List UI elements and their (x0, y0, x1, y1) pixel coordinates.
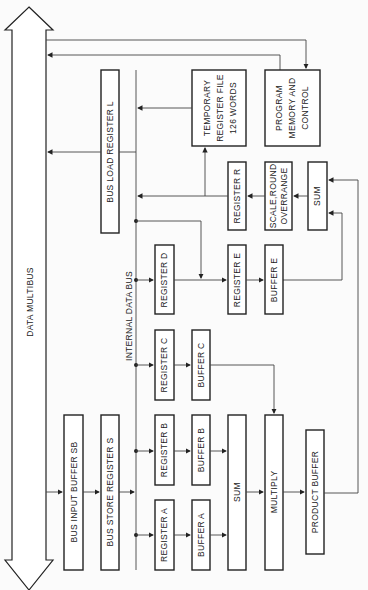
svg-text:BUFFER C: BUFFER C (196, 343, 206, 388)
block-diagram: DATA MULTIBUS INTERNAL DATA BUS BUS LOAD… (0, 0, 368, 590)
svg-text:BUS INPUT BUFFER SB: BUS INPUT BUFFER SB (69, 441, 79, 542)
data-multibus: DATA MULTIBUS (5, 7, 53, 590)
svg-text:BUFFER A: BUFFER A (196, 513, 206, 557)
svg-text:PROGRAM: PROGRAM (274, 85, 284, 131)
svg-text:BUS STORE REGISTER S: BUS STORE REGISTER S (105, 438, 115, 547)
svg-text:BUFFER B: BUFFER B (196, 428, 206, 472)
svg-text:REGISTER B: REGISTER B (159, 423, 169, 478)
svg-text:PRODUCT BUFFER: PRODUCT BUFFER (310, 451, 320, 533)
svg-text:MULTIPLY: MULTIPLY (269, 471, 279, 514)
svg-text:MEMORY AND: MEMORY AND (287, 78, 297, 139)
svg-text:BUS LOAD REGISTER L: BUS LOAD REGISTER L (105, 101, 115, 203)
svg-text:REGISTER E: REGISTER E (232, 253, 242, 308)
svg-text:REGISTER D: REGISTER D (159, 253, 169, 308)
svg-text:REGISTER C: REGISTER C (159, 338, 169, 393)
svg-text:SUM: SUM (312, 186, 322, 206)
svg-text:SUM: SUM (232, 482, 242, 502)
svg-text:REGISTER FILE: REGISTER FILE (215, 74, 225, 142)
svg-text:126 WORDS: 126 WORDS (228, 82, 238, 134)
internal-data-bus-label: INTERNAL DATA BUS (124, 271, 134, 361)
svg-text:SCALE,ROUND: SCALE,ROUND (268, 164, 278, 229)
data-multibus-label: DATA MULTIBUS (25, 267, 35, 337)
svg-text:REGISTER R: REGISTER R (232, 169, 242, 224)
svg-text:TEMPORARY: TEMPORARY (202, 80, 212, 136)
svg-text:OVERRANGE: OVERRANGE (279, 167, 289, 224)
svg-text:BUFFER E: BUFFER E (269, 258, 279, 302)
svg-text:CONTROL: CONTROL (300, 86, 310, 130)
svg-text:REGISTER A: REGISTER A (159, 508, 169, 562)
